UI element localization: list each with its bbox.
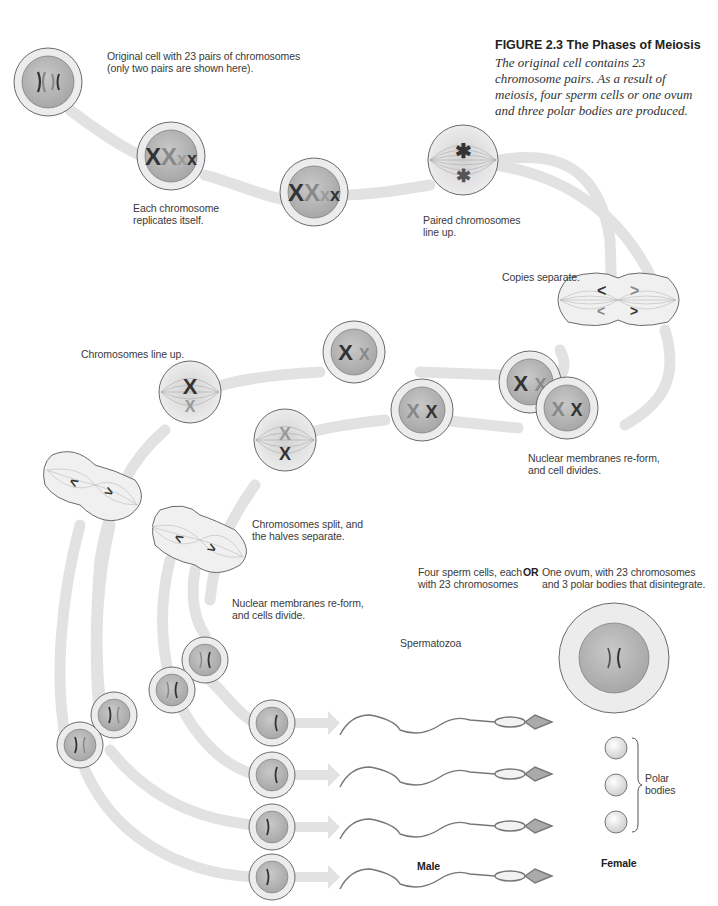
label-copies-separate: Copies separate. (502, 271, 580, 284)
replicated-cell: XXxx (137, 122, 205, 190)
svg-text:<: < (597, 282, 606, 299)
label-spermatozoa: Spermatozoa (400, 637, 461, 650)
ovum (559, 603, 669, 713)
pathway (210, 680, 255, 723)
label-male: Male (417, 860, 440, 873)
pathway (163, 560, 171, 680)
label-replicates-2: replicates itself. (133, 214, 204, 227)
metaphase-i-cell: ✱ ✱ (428, 125, 498, 195)
label-female: Female (601, 857, 637, 870)
daughter-cell-b: X X (536, 377, 598, 439)
label-split-2: the halves separate. (252, 530, 345, 543)
pathway (625, 330, 670, 425)
label-nuclear-reform-2: and cell divides. (528, 464, 601, 477)
polar-body (605, 811, 627, 833)
svg-text:X X: X X (552, 398, 583, 420)
label-ovum-1: One ovum, with 23 chromosomes (542, 566, 696, 579)
label-polar-1: Polar (645, 772, 669, 785)
spermatozoon (340, 715, 552, 735)
arrow (290, 815, 340, 839)
arrow (290, 763, 340, 787)
pathway (193, 570, 205, 635)
label-four-sperm-1: Four sperm cells, each (418, 566, 522, 579)
sperm-cell (249, 700, 295, 746)
label-split-1: Chromosomes split, and (252, 518, 363, 531)
label-paired-2: line up. (423, 226, 456, 239)
original-cell (14, 48, 82, 116)
sperm-cell (249, 752, 295, 798)
svg-text:✱: ✱ (456, 166, 471, 186)
label-chromosomes-line-up: Chromosomes line up. (81, 348, 184, 361)
svg-text:>: > (630, 282, 639, 299)
brace (632, 738, 642, 832)
spermatozoa (340, 715, 552, 889)
svg-text:X: X (185, 398, 196, 415)
spermatozoon (340, 869, 552, 889)
svg-text:<: < (597, 303, 605, 319)
metaphase-ii-cell-a: X X (159, 361, 221, 423)
prophase-ii-cell-a: X X (323, 321, 385, 383)
spermatozoon (340, 767, 552, 787)
svg-text:>: > (630, 303, 638, 319)
label-or: OR (523, 566, 539, 579)
label-original-cell-note: (only two pairs are shown here). (107, 62, 253, 75)
pathway (440, 420, 518, 428)
polar-body (605, 737, 627, 759)
telophase-ii-cell (149, 667, 195, 713)
label-original-cell: Original cell with 23 pairs of chromosom… (107, 50, 300, 63)
sperm-cell (249, 804, 295, 850)
label-polar-2: bodies (645, 784, 675, 797)
svg-text:X: X (279, 424, 291, 444)
metaphase-ii-cell-b: X X (254, 409, 316, 471)
pathway (340, 185, 430, 195)
svg-text:✱: ✱ (455, 140, 472, 162)
pathway (420, 372, 500, 375)
svg-text:X X: X X (407, 400, 438, 422)
pathway (205, 175, 285, 200)
prophase-ii-cell-b: X X (391, 379, 453, 441)
label-ovum-2: and 3 polar bodies that disintegrate. (542, 578, 705, 591)
svg-text:X: X (279, 444, 291, 464)
polar-body (605, 774, 627, 796)
label-four-sperm-2: with 23 chromosomes (418, 578, 518, 591)
anaphase-ii-cell-a: < > (44, 452, 142, 521)
figure-title: FIGURE 2.3 The Phases of Meiosis (495, 38, 701, 52)
svg-text:X: X (183, 374, 198, 399)
label-cells-divide-2: and cells divide. (232, 609, 305, 622)
label-paired-1: Paired chromosomes (423, 214, 520, 227)
arrows (290, 711, 340, 889)
pathway (60, 525, 80, 735)
arrow (290, 865, 340, 889)
polar-bodies (605, 737, 642, 833)
arrow (290, 711, 340, 735)
prophase-cell: XXxx (280, 158, 348, 226)
pathway (210, 372, 320, 390)
sperm-cell (249, 854, 295, 900)
spermatozoon (340, 819, 552, 839)
label-cells-divide-1: Nuclear membranes re-form, (232, 597, 364, 610)
telophase-ii-cell (57, 722, 103, 768)
label-nuclear-reform-1: Nuclear membranes re-form, (528, 452, 660, 465)
figure-caption: The original cell contains 23 chromosome… (495, 55, 710, 119)
label-replicates-1: Each chromosome (133, 202, 219, 215)
